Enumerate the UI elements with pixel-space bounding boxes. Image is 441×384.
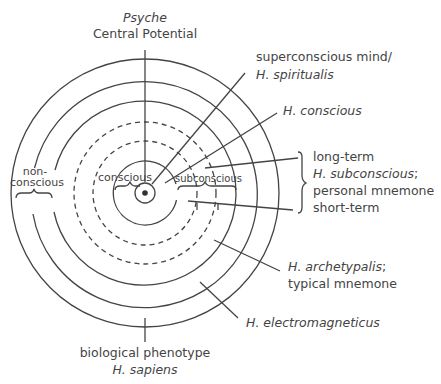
typical-mnemone-label: typical mnemone [288,276,397,291]
electromagneticus-label: H. electromagneticus [246,315,380,330]
superconscious-label: superconscious mind/ [256,49,392,64]
leader-archetypalis [214,240,280,271]
psyche-label: Psyche [95,10,195,25]
brace-subconscious-memory [298,152,306,213]
biological-phenotype-label: biological phenotype [70,345,220,360]
h-subconscious-label: H. subconscious; [313,166,418,181]
archetypalis-label: H. archetypalis; [288,259,386,274]
center-dot [142,190,148,196]
h-sapiens-label: H. sapiens [70,362,220,377]
h-conscious-label: H. conscious [283,103,362,118]
long-term-label: long-term [313,149,374,164]
leader-short-term [188,201,293,210]
short-term-label: short-term [313,200,379,215]
conscious-label: conscious [98,172,152,184]
spiritualis-label: H. spiritualis [256,67,334,82]
central-potential-label: Central Potential [80,26,210,41]
personal-mnemone-label: personal mnemone [313,183,434,198]
leader-spiritualis [152,73,245,184]
brace-non-conscious [16,189,52,198]
non-conscious-label: conscious [10,177,60,189]
subconscious-label: subconscious [175,173,242,185]
